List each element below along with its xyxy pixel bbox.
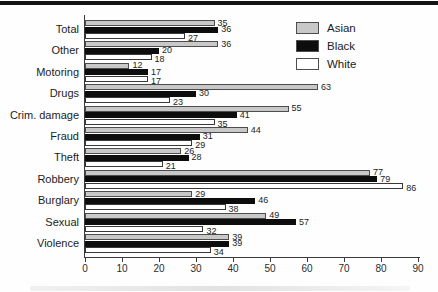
legend-swatch-black	[296, 40, 319, 52]
x-tick-label: 20	[147, 263, 171, 274]
category-label: Sexual	[0, 216, 79, 229]
x-tick-label: 0	[73, 263, 97, 274]
x-tick	[307, 258, 308, 262]
x-tick	[159, 258, 160, 262]
legend-label-white: White	[327, 57, 356, 71]
category-label: Fraud	[0, 130, 79, 143]
x-tick-label: 60	[295, 263, 319, 274]
cropped-caption-fragment	[30, 286, 410, 291]
x-tick	[233, 258, 234, 262]
bar-motoring-asian	[85, 63, 129, 69]
category-label: Crim. damage	[0, 109, 79, 122]
bar-theft-white	[85, 161, 163, 167]
bar-value-label: 44	[251, 126, 261, 135]
bar-motoring-black	[85, 69, 148, 75]
legend-label-black: Black	[327, 39, 355, 53]
bar-total-white	[85, 33, 185, 39]
bar-value-label: 41	[240, 111, 250, 120]
x-tick	[418, 258, 419, 262]
bar-sexual-asian	[85, 213, 266, 219]
bar-value-label: 39	[232, 239, 242, 248]
bar-value-label: 36	[221, 25, 231, 34]
x-tick	[85, 258, 86, 262]
bar-crim-damage-white	[85, 119, 215, 125]
bar-value-label: 36	[221, 40, 231, 49]
bar-value-label: 63	[321, 83, 331, 92]
category-label: Total	[0, 23, 79, 36]
x-tick-label: 30	[184, 263, 208, 274]
bar-total-asian	[85, 20, 215, 26]
bar-violence-asian	[85, 234, 229, 240]
x-tick	[196, 258, 197, 262]
x-tick-label: 70	[332, 263, 356, 274]
x-tick-label: 50	[258, 263, 282, 274]
legend-swatch-white	[296, 58, 319, 70]
legend-label-asian: Asian	[327, 21, 356, 35]
bar-sexual-black	[85, 219, 296, 225]
bar-fraud-black	[85, 134, 200, 140]
x-axis-line	[84, 257, 420, 258]
category-label: Robbery	[0, 173, 79, 186]
x-tick-label: 80	[369, 263, 393, 274]
bar-drugs-white	[85, 97, 170, 103]
bar-crim-damage-black	[85, 112, 237, 118]
bar-value-label: 30	[199, 89, 209, 98]
category-label: Burglary	[0, 194, 79, 207]
bar-violence-black	[85, 241, 229, 247]
bar-value-label: 18	[155, 55, 165, 64]
x-tick	[344, 258, 345, 262]
bar-violence-white	[85, 247, 211, 253]
bar-robbery-black	[85, 176, 377, 182]
x-tick	[122, 258, 123, 262]
bar-other-black	[85, 48, 159, 54]
bar-value-label: 57	[299, 218, 309, 227]
bar-drugs-black	[85, 91, 196, 97]
x-tick	[381, 258, 382, 262]
bar-burglary-black	[85, 198, 255, 204]
x-tick-label: 10	[110, 263, 134, 274]
bar-value-label: 86	[406, 184, 416, 193]
bar-burglary-asian	[85, 191, 192, 197]
bar-sexual-white	[85, 226, 203, 232]
bar-robbery-white	[85, 183, 403, 189]
category-label: Theft	[0, 151, 79, 164]
top-divider-rule	[0, 1, 438, 5]
bar-fraud-white	[85, 140, 192, 146]
bar-motoring-white	[85, 76, 148, 82]
bar-value-label: 34	[214, 248, 224, 257]
category-label: Other	[0, 44, 79, 57]
bar-value-label: 28	[192, 153, 202, 162]
x-tick-label: 40	[221, 263, 245, 274]
x-tick	[270, 258, 271, 262]
bar-value-label: 55	[292, 104, 302, 113]
bar-value-label: 29	[195, 141, 205, 150]
bar-fraud-asian	[85, 127, 248, 133]
bar-crim-damage-asian	[85, 106, 289, 112]
bar-value-label: 46	[258, 196, 268, 205]
bar-theft-black	[85, 155, 189, 161]
category-label: Motoring	[0, 66, 79, 79]
bar-theft-asian	[85, 148, 181, 154]
bar-burglary-white	[85, 204, 226, 210]
category-label: Drugs	[0, 87, 79, 100]
x-tick-label: 90	[406, 263, 430, 274]
category-label: Violence	[0, 237, 79, 250]
crime-ethnicity-bar-chart: 0102030405060708090Total353627Other36201…	[0, 0, 438, 292]
bar-robbery-asian	[85, 170, 370, 176]
bar-other-asian	[85, 41, 218, 47]
legend-swatch-asian	[296, 22, 319, 34]
bar-total-black	[85, 27, 218, 33]
